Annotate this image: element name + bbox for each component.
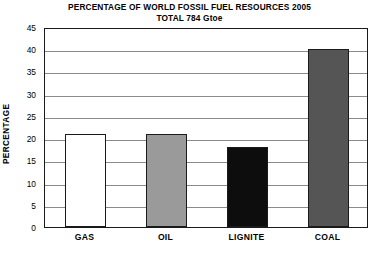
y-axis-tick-label: 10 xyxy=(27,179,36,188)
x-axis-tick-label-lignite: LIGNITE xyxy=(229,232,265,242)
y-axis-title: PERCENTAGE xyxy=(2,84,14,184)
chart-subtitle: TOTAL 784 Gtoe xyxy=(0,13,379,24)
x-axis-tick-label-coal: COAL xyxy=(315,232,341,242)
y-axis-tick-label: 25 xyxy=(27,112,36,121)
y-axis-tick-label: 40 xyxy=(27,46,36,55)
y-axis-tick-label: 45 xyxy=(27,24,36,33)
chart-figure: PERCENTAGE OF WORLD FOSSIL FUEL RESOURCE… xyxy=(0,0,379,258)
x-axis-tick-label-oil: OIL xyxy=(158,232,173,242)
y-axis-tick-label: 15 xyxy=(27,157,36,166)
chart-title: PERCENTAGE OF WORLD FOSSIL FUEL RESOURCE… xyxy=(0,2,379,13)
x-axis-tick-labels: GASOILLIGNITECOAL xyxy=(44,232,368,248)
y-axis-tick-label: 30 xyxy=(27,90,36,99)
y-axis-tick-label: 0 xyxy=(31,224,36,233)
y-axis-tick-label: 20 xyxy=(27,135,36,144)
plot-area xyxy=(44,28,368,228)
x-axis-tick-label-gas: GAS xyxy=(75,232,95,242)
bar-coal xyxy=(308,49,348,227)
y-axis-tick-label: 5 xyxy=(31,201,36,210)
bar-lignite xyxy=(227,147,267,227)
y-axis-tick-labels: 051015202530354045 xyxy=(14,28,40,228)
bar-gas xyxy=(65,134,105,227)
bar-oil xyxy=(146,134,186,227)
bar-series xyxy=(45,29,367,227)
chart-title-block: PERCENTAGE OF WORLD FOSSIL FUEL RESOURCE… xyxy=(0,2,379,24)
y-axis-tick-label: 35 xyxy=(27,68,36,77)
